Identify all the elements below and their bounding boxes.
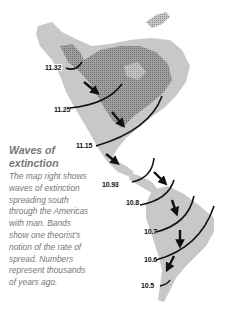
band-label: 10.93 [102,181,119,188]
map-caption: The map right shows waves of extinction … [9,171,91,289]
band-label: 10.7 [144,228,157,235]
band-label: 10.5 [141,282,154,289]
greenland [146,12,170,28]
band-label: 10.8 [126,199,139,206]
band-label: 11.32 [44,64,62,71]
band-label: 10.6 [144,256,157,263]
map-title: Waves of extinction [9,144,79,170]
band-label: 11.25 [54,106,70,113]
extinction-map-figure: 11.32 11.25 11.15 10.93 10.8 10.7 10.6 1… [0,0,228,310]
